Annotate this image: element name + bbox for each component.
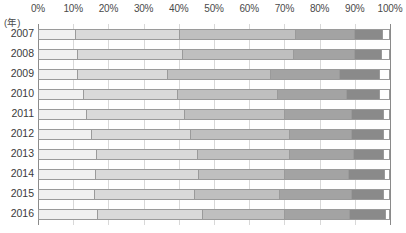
x-axis-tick-90: 90% xyxy=(345,3,364,14)
bar-segment-s1-2010 xyxy=(39,90,84,99)
bar-segment-s3-2010 xyxy=(178,90,277,99)
bar-segment-s5-2014 xyxy=(349,170,385,179)
bar-segment-s3-2011 xyxy=(185,110,285,119)
bar-segment-s5-2011 xyxy=(352,110,384,119)
bar-segment-s5-2015 xyxy=(352,190,384,199)
bar-segment-s3-2014 xyxy=(199,170,284,179)
bar-segment-s5-2008 xyxy=(355,50,383,59)
bar-segment-s1-2016 xyxy=(39,210,98,219)
bar-segment-s3-2016 xyxy=(203,210,285,219)
bar-segment-s1-2013 xyxy=(39,150,97,159)
y-axis-label-2012: 2012 xyxy=(2,128,38,139)
bar-segment-s6-2015 xyxy=(384,190,389,199)
bar-segment-s4-2015 xyxy=(280,190,352,199)
bar-segment-s1-2011 xyxy=(39,110,87,119)
bar-segment-s6-2009 xyxy=(380,70,389,79)
bar-segment-s4-2011 xyxy=(285,110,352,119)
x-axis-tick-10: 10% xyxy=(63,3,82,14)
x-axis-tick-labels: 0%10%20%30%40%50%60%70%80%90%100% xyxy=(0,3,406,17)
x-axis-tick-60: 60% xyxy=(239,3,258,14)
bar-segment-s4-2009 xyxy=(271,70,341,79)
stacked-bar-2014 xyxy=(38,169,390,180)
bar-segment-s1-2014 xyxy=(39,170,96,179)
x-axis-tick-30: 30% xyxy=(134,3,153,14)
bar-segment-s4-2010 xyxy=(278,90,348,99)
table-row: 2010 xyxy=(38,89,390,100)
bar-segment-s2-2016 xyxy=(98,210,203,219)
y-axis-label-2015: 2015 xyxy=(2,188,38,199)
bar-segment-s5-2010 xyxy=(347,90,380,99)
y-axis-label-2013: 2013 xyxy=(2,148,38,159)
bar-segment-s6-2007 xyxy=(383,30,389,39)
x-axis-tick-40: 40% xyxy=(169,3,188,14)
stacked-bar-2010 xyxy=(38,89,390,100)
bar-segment-s1-2007 xyxy=(39,30,76,39)
bar-segment-s3-2013 xyxy=(198,150,289,159)
table-row: 2007 xyxy=(38,29,390,40)
bar-segment-s2-2015 xyxy=(95,190,195,199)
bar-segment-s2-2013 xyxy=(97,150,199,159)
stacked-bar-2009 xyxy=(38,69,390,80)
stacked-bar-chart: (年) 0%10%20%30%40%50%60%70%80%90%100% 20… xyxy=(0,0,406,233)
x-axis-tick-50: 50% xyxy=(204,3,223,14)
y-axis-label-2007: 2007 xyxy=(2,28,38,39)
bar-segment-s4-2016 xyxy=(285,210,351,219)
bar-segment-s3-2007 xyxy=(180,30,296,39)
table-row: 2013 xyxy=(38,149,390,160)
stacked-bar-2011 xyxy=(38,109,390,120)
stacked-bar-2008 xyxy=(38,49,390,60)
stacked-bar-2013 xyxy=(38,149,390,160)
y-axis-label-2016: 2016 xyxy=(2,208,38,219)
bar-segment-s2-2009 xyxy=(78,70,169,79)
bar-segment-s3-2012 xyxy=(191,130,289,139)
stacked-bar-2012 xyxy=(38,129,390,140)
table-row: 2011 xyxy=(38,109,390,120)
y-axis-label-2008: 2008 xyxy=(2,48,38,59)
bar-segment-s2-2014 xyxy=(96,170,200,179)
bar-segment-s1-2015 xyxy=(39,190,95,199)
bar-segment-s6-2012 xyxy=(384,130,389,139)
x-axis-tick-70: 70% xyxy=(275,3,294,14)
bar-segment-s4-2012 xyxy=(290,130,353,139)
y-axis-label-2014: 2014 xyxy=(2,168,38,179)
bar-segment-s4-2014 xyxy=(285,170,350,179)
stacked-bar-2016 xyxy=(38,209,390,220)
table-row: 2012 xyxy=(38,129,390,140)
x-axis-tick-0: 0% xyxy=(31,3,45,14)
stacked-bar-2015 xyxy=(38,189,390,200)
bar-segment-s4-2008 xyxy=(294,50,355,59)
bar-segment-s6-2013 xyxy=(384,150,389,159)
bar-segment-s1-2009 xyxy=(39,70,78,79)
bar-segment-s3-2008 xyxy=(183,50,294,59)
stacked-bar-2007 xyxy=(38,29,390,40)
bar-rows: 2007200820092010201120122013201420152016 xyxy=(38,24,390,225)
gridline-100 xyxy=(390,24,391,225)
plot-area: 2007200820092010201120122013201420152016 xyxy=(38,24,390,225)
bar-segment-s3-2009 xyxy=(168,70,271,79)
bar-segment-s5-2012 xyxy=(352,130,384,139)
y-axis-label-2009: 2009 xyxy=(2,68,38,79)
y-axis-label-2010: 2010 xyxy=(2,88,38,99)
table-row: 2009 xyxy=(38,69,390,80)
table-row: 2008 xyxy=(38,49,390,60)
bar-segment-s5-2013 xyxy=(354,150,384,159)
bar-segment-s2-2012 xyxy=(92,130,191,139)
bar-segment-s4-2007 xyxy=(296,30,356,39)
bar-segment-s1-2012 xyxy=(39,130,92,139)
bar-segment-s5-2007 xyxy=(355,30,383,39)
table-row: 2014 xyxy=(38,169,390,180)
bar-segment-s2-2010 xyxy=(84,90,179,99)
y-axis-label-2011: 2011 xyxy=(2,108,38,119)
bar-segment-s6-2008 xyxy=(382,50,389,59)
bar-segment-s5-2009 xyxy=(340,70,380,79)
table-row: 2016 xyxy=(38,209,390,220)
bar-segment-s3-2015 xyxy=(195,190,280,199)
bar-segment-s6-2010 xyxy=(380,90,389,99)
bar-segment-s1-2008 xyxy=(39,50,78,59)
bar-segment-s6-2014 xyxy=(385,170,389,179)
bar-segment-s2-2008 xyxy=(78,50,183,59)
x-axis-tick-100: 100% xyxy=(378,3,403,14)
bar-segment-s6-2011 xyxy=(384,110,389,119)
table-row: 2015 xyxy=(38,189,390,200)
bar-segment-s2-2007 xyxy=(76,30,180,39)
